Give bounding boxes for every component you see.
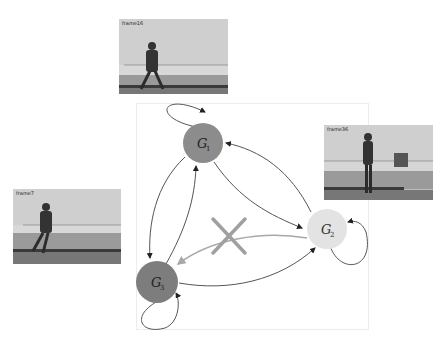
edge-g3-to-g2 xyxy=(179,248,315,286)
video-frame-thumbnail: frame16 xyxy=(119,19,228,94)
video-frame-thumbnail: frame36 xyxy=(324,125,433,200)
node-g1: G 1 xyxy=(183,123,223,163)
svg-text:3: 3 xyxy=(160,284,164,292)
walking-person-image xyxy=(119,19,228,94)
frame-label: frame7 xyxy=(16,190,34,196)
standing-person-image xyxy=(324,125,433,200)
frame-label: frame16 xyxy=(122,20,143,26)
node-g2: G 2 xyxy=(307,209,347,249)
edge-g1-to-g2 xyxy=(214,162,302,228)
edge-g1-to-g3 xyxy=(150,157,185,258)
frame-label: frame36 xyxy=(327,126,348,132)
svg-text:1: 1 xyxy=(206,145,210,153)
forbidden-cross-icon xyxy=(213,219,245,253)
walking-person-image xyxy=(13,189,121,264)
node-g3: G 3 xyxy=(136,261,178,303)
edge-g2-to-g1 xyxy=(226,143,311,212)
svg-text:2: 2 xyxy=(330,231,334,239)
video-frame-thumbnail: frame7 xyxy=(13,189,121,264)
edge-g3-to-g1 xyxy=(166,166,196,264)
